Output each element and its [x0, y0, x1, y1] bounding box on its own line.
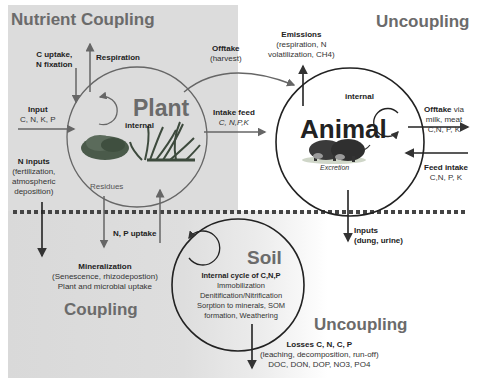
soil-label: Soil	[247, 247, 282, 269]
soil-line: formation, Weathering	[196, 311, 286, 321]
uncoupling-bottom-heading: Uncoupling	[314, 315, 407, 335]
np-uptake-label: N, P uptake	[113, 229, 156, 239]
respiration-label: Respiration	[96, 53, 140, 63]
intake-feed-label: Intake feedC, N,P,K	[213, 108, 255, 128]
n-inputs-label: N inputs (fertilization, atmospheric dep…	[12, 157, 56, 197]
plant-internal-label: internal	[125, 121, 154, 131]
soil-cycle-title: Internal cycle of C,N,P	[196, 271, 286, 281]
excretion-label: Excretion	[320, 163, 349, 173]
residues-label: Residues	[90, 182, 123, 192]
soil-line: Immobilization	[196, 281, 286, 291]
animal-label: Animal	[300, 114, 387, 145]
offtake-animal-label: Offtake via milk, meat C,N, P, K	[424, 105, 464, 135]
mineralization-label: Mineralization (Senescence, rhizodeposti…	[52, 262, 158, 292]
uncoupling-top-heading: Uncoupling	[376, 12, 469, 32]
coupling-heading: Coupling	[64, 300, 138, 320]
c-uptake-label: C uptake,N fixation	[36, 50, 72, 70]
offtake-harvest-label: Offtake(harvest)	[210, 44, 242, 64]
feed-intake-label: Feed intakeC,N, P, K	[424, 163, 468, 183]
plant-circle	[67, 67, 207, 207]
inputs-dung-label: Inputs (dung, urine)	[354, 226, 403, 246]
soil-description: Internal cycle of C,N,P Immobilization D…	[196, 271, 286, 321]
soil-line: Sorption to minerals, SOM	[196, 301, 286, 311]
nutrient-coupling-heading: Nutrient Coupling	[11, 10, 155, 30]
soil-line: Denitification/Nitrification	[196, 291, 286, 301]
input-label: InputC, N, K, P	[20, 105, 56, 125]
emissions-label: Emissions (respiration, N volatilization…	[268, 30, 335, 60]
plant-internal-cycle-icon	[99, 97, 117, 125]
plant-label: Plant	[133, 95, 189, 122]
shrub-image	[81, 135, 129, 160]
losses-label: Losses C, N, C, P (leaching, decompositi…	[260, 340, 379, 370]
animal-internal-label: internal	[345, 92, 374, 102]
offtake-harvest-arrow	[184, 73, 294, 92]
